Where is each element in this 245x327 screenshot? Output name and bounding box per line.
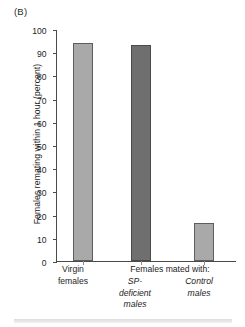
y-axis-tick: 40 xyxy=(53,169,58,170)
y-axis-tick: 50 xyxy=(53,146,58,147)
x-category-label-sp-deficient-males: SP-deficientmales xyxy=(104,276,166,311)
figure-panel-b: (B) Females remating within 1 hour (perc… xyxy=(0,0,245,327)
plot-area: 1009080706050403020100 xyxy=(56,30,236,262)
x-category-label-line: males xyxy=(168,288,230,300)
x-group-header: Females mated with: xyxy=(96,264,244,274)
bar-sp-deficient-males xyxy=(131,45,151,261)
x-category-label-line: SP- xyxy=(104,276,166,288)
x-category-label-line: females xyxy=(40,276,106,288)
y-axis-tick: 60 xyxy=(53,123,58,124)
y-axis-tick-label: 60 xyxy=(37,119,47,129)
x-category-label-virgin-females: Virginfemales xyxy=(40,264,106,287)
y-axis-tick-label: 80 xyxy=(37,72,47,82)
x-category-label-line: males xyxy=(104,299,166,311)
panel-label: (B) xyxy=(14,6,27,17)
y-axis-tick-label: 10 xyxy=(37,235,47,245)
y-axis-tick-label: 50 xyxy=(37,142,47,152)
x-category-label-line: Virgin xyxy=(40,264,106,276)
x-category-label-control-males: Controlmales xyxy=(168,276,230,299)
y-axis-tick-label: 90 xyxy=(37,49,47,59)
y-axis-tick: 80 xyxy=(53,76,58,77)
x-category-label-line: deficient xyxy=(104,288,166,300)
y-axis-tick-label: 30 xyxy=(37,188,47,198)
caption-cutoff-strip xyxy=(14,319,232,324)
y-axis-tick-label: 40 xyxy=(37,165,47,175)
y-axis-tick: 20 xyxy=(53,216,58,217)
y-axis-tick: 0 xyxy=(53,262,58,263)
y-axis-tick-label: 20 xyxy=(37,212,47,222)
x-category-label-line: Control xyxy=(168,276,230,288)
y-axis-tick: 100 xyxy=(53,30,58,31)
bar-virgin-females xyxy=(73,43,93,261)
y-axis-tick: 70 xyxy=(53,100,58,101)
y-axis-tick-label: 100 xyxy=(32,26,46,36)
y-axis-tick: 10 xyxy=(53,239,58,240)
bar-control-males xyxy=(194,223,214,261)
y-axis-tick-label: 70 xyxy=(37,96,47,106)
y-axis-tick: 30 xyxy=(53,192,58,193)
y-axis-tick: 90 xyxy=(53,53,58,54)
